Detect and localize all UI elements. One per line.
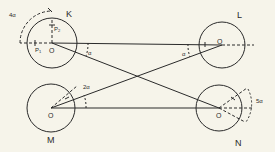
angle-2a: 2α: [83, 84, 90, 90]
line-k-l: [52, 43, 222, 45]
label-p2: P2: [54, 26, 61, 33]
angle-a-k: α: [88, 50, 92, 56]
label-m: M: [47, 135, 55, 145]
l-angle-arc: [188, 44, 190, 57]
m-tick: [65, 97, 69, 99]
m-dash: [51, 86, 77, 108]
line-m-l: [51, 45, 222, 108]
label-p1: P1: [35, 47, 42, 54]
k-arc-4a: [20, 11, 52, 43]
label-k: K: [66, 9, 72, 19]
angle-4a: 4α: [9, 12, 16, 18]
circles-diagram: K L M N O O O O P1 P2 4α α α 2α 5α: [0, 0, 275, 152]
label-l: L: [237, 10, 242, 20]
n-arc-5a: [246, 89, 252, 122]
m-arc-2a: [84, 95, 86, 108]
center-l: O: [217, 38, 223, 45]
label-n: N: [235, 138, 242, 148]
center-n: O: [216, 112, 222, 119]
diagram: K L M N O O O O P1 P2 4α α α 2α 5α: [0, 0, 275, 152]
center-m: O: [48, 112, 54, 119]
angle-5a: 5α: [256, 98, 263, 104]
angle-a-l: α: [182, 51, 186, 57]
center-k: O: [49, 47, 55, 54]
